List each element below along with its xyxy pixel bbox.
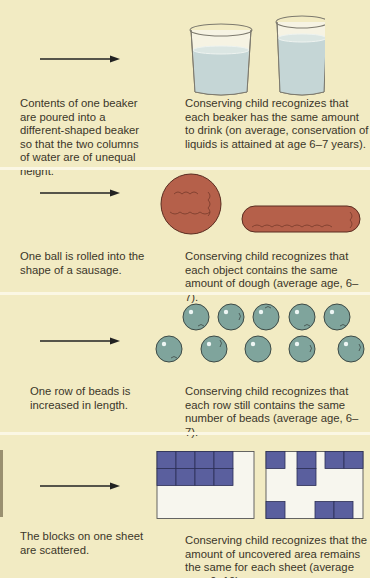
panel-number: One row of beads is increased in length.… xyxy=(0,295,370,433)
cropped-edge-fragment xyxy=(0,450,3,517)
two-beakers-icon xyxy=(185,8,325,96)
arrow-right-icon xyxy=(40,189,120,197)
panel-liquid-explanation: Conserving child recognizes that each be… xyxy=(185,97,370,151)
dough-ball-and-sausage-icon xyxy=(160,172,370,242)
bead-rows-icon xyxy=(155,297,370,377)
arrow-right-icon xyxy=(40,337,120,345)
block-sheets-icon xyxy=(155,451,370,521)
panel-substance-description: One ball is rolled into the shape of a s… xyxy=(20,250,150,277)
arrow-right-icon xyxy=(40,55,120,63)
panel-number-description: One row of beads is increased in length. xyxy=(30,385,150,412)
panel-area: The blocks on one sheet are scattered. C… xyxy=(0,435,370,578)
panel-area-explanation: Conserving child recognizes that the amo… xyxy=(185,534,370,578)
arrow-right-icon xyxy=(40,482,120,490)
panel-liquid: Contents of one beaker are poured into a… xyxy=(0,0,370,168)
panel-area-description: The blocks on one sheet are scattered. xyxy=(20,530,150,557)
panel-substance: One ball is rolled into the shape of a s… xyxy=(0,170,370,293)
